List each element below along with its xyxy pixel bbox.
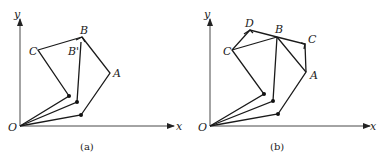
panel-b: y x O D B C C A (b)	[198, 8, 377, 152]
figure-canvas: y x O B B' C A (a) y x O D B C C A (b)	[0, 0, 378, 159]
caption-b: (b)	[270, 141, 284, 152]
chain-b	[210, 37, 277, 126]
chain-c-left	[210, 30, 277, 126]
point-label-b-prime: B'	[67, 45, 79, 58]
joint-dot	[75, 100, 79, 104]
joint-dot	[276, 112, 280, 116]
joint-dot	[67, 94, 71, 98]
point-label-c-left: C	[223, 45, 232, 58]
point-label-c-right: C	[308, 33, 317, 46]
joint-dot	[262, 92, 266, 96]
point-label-a: A	[309, 69, 318, 82]
y-axis-label: y	[203, 8, 211, 21]
caption-a: (a)	[80, 141, 94, 152]
origin-label: O	[198, 121, 207, 134]
vertex-c-right-detail	[301, 43, 305, 49]
joint-dot	[271, 99, 275, 103]
point-label-b: B	[79, 24, 88, 37]
link-c-b	[232, 37, 277, 50]
x-axis-label: x	[176, 120, 183, 133]
point-label-c: C	[29, 45, 38, 58]
y-axis-label: y	[13, 8, 21, 21]
point-label-b: B	[274, 23, 283, 36]
x-axis-label: x	[370, 120, 377, 133]
point-label-d: D	[244, 17, 254, 30]
joint-dot	[79, 113, 83, 117]
origin-label: O	[8, 121, 17, 134]
point-label-a: A	[112, 67, 121, 80]
panel-a: y x O B B' C A (a)	[8, 8, 183, 152]
